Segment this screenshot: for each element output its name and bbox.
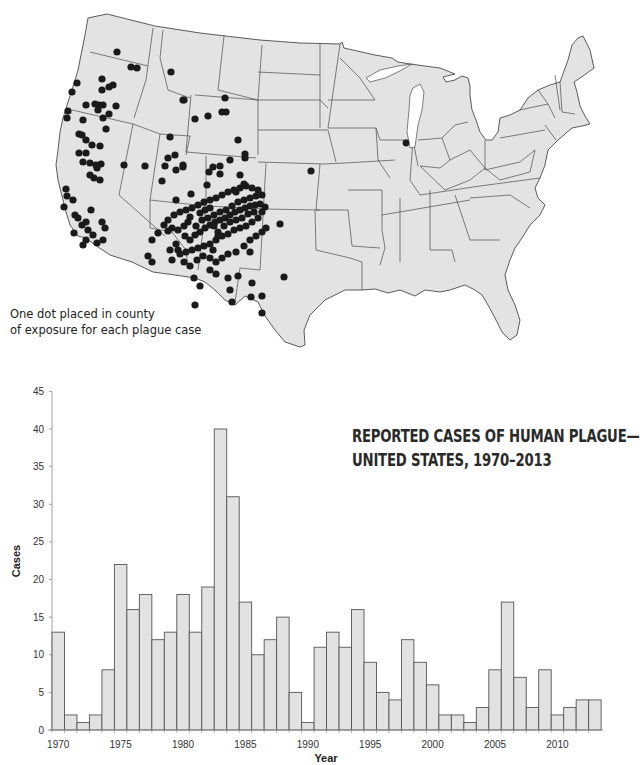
plague-case-dot: [226, 286, 233, 293]
plague-case-dot: [191, 115, 198, 122]
x-tick-label: 1990: [297, 739, 320, 750]
plague-case-dot: [252, 192, 259, 199]
x-tick-label: 2000: [422, 739, 445, 750]
plague-case-dot: [87, 206, 94, 213]
plague-case-dot: [148, 258, 155, 265]
plague-case-dot: [158, 177, 165, 184]
bar-2000: [426, 685, 438, 730]
plague-case-dot: [221, 94, 228, 101]
bar-2008: [526, 707, 538, 730]
plague-case-dot: [97, 160, 104, 167]
bar-2013: [589, 700, 601, 730]
plague-case-dot: [180, 258, 187, 265]
bar-1991: [314, 647, 326, 730]
bar-2006: [501, 602, 513, 730]
bar-1988: [277, 617, 289, 730]
x-axis: 197019751980198519901995200020052010: [47, 730, 603, 750]
bar-1997: [389, 700, 401, 730]
plague-case-dot: [230, 226, 237, 233]
plague-case-dot: [209, 246, 216, 253]
bar-1977: [139, 595, 151, 730]
plague-case-dot: [174, 226, 181, 233]
chart-title-line-2: UNITED STATES, 1970–2013: [352, 448, 640, 472]
us-outline: [56, 14, 594, 347]
bar-1994: [352, 610, 364, 730]
y-axis: 051015202530354045: [33, 386, 52, 736]
plague-case-dot: [63, 114, 70, 121]
plague-case-dot: [96, 176, 103, 183]
plague-case-dot: [64, 107, 71, 114]
x-tick-label: 1970: [47, 739, 70, 750]
bar-1984: [227, 497, 239, 730]
bar-1976: [127, 610, 139, 730]
plague-case-dot: [258, 292, 265, 299]
plague-case-dot: [190, 274, 197, 281]
plague-case-dot: [96, 142, 103, 149]
plague-case-dot: [74, 214, 81, 221]
y-tick-label: 5: [38, 687, 44, 698]
bar-1987: [264, 640, 276, 730]
plague-case-dot: [247, 293, 254, 300]
bar-1978: [152, 640, 164, 730]
plague-case-dot: [69, 196, 76, 203]
plague-case-dot: [214, 232, 221, 239]
bar-2002: [451, 715, 463, 730]
plague-case-dot: [248, 218, 255, 225]
bar-1992: [327, 632, 339, 730]
plague-case-dot: [112, 102, 119, 109]
plague-case-dot: [234, 136, 241, 143]
plague-case-dot: [192, 222, 199, 229]
plague-case-dot: [186, 262, 193, 269]
plague-case-dot: [174, 246, 181, 253]
plague-case-dot: [240, 242, 247, 249]
y-tick-label: 15: [33, 612, 45, 623]
plague-case-dot: [62, 185, 69, 192]
plague-case-dot: [212, 258, 219, 265]
bar-1970: [52, 632, 64, 730]
x-tick-label: 1985: [234, 739, 257, 750]
plague-case-dot: [154, 229, 161, 236]
bar-1995: [364, 662, 376, 730]
plague-case-dot: [133, 64, 140, 71]
us-landmass: [56, 14, 594, 347]
plague-case-dot: [164, 154, 171, 161]
bar-1989: [289, 692, 301, 730]
bar-1999: [414, 662, 426, 730]
bar-1993: [339, 647, 351, 730]
bar-2010: [551, 715, 563, 730]
y-tick-label: 40: [33, 424, 45, 435]
plague-case-dot: [236, 171, 243, 178]
x-axis-title: Year: [314, 752, 338, 764]
plague-case-dot: [168, 256, 175, 263]
bar-1974: [102, 670, 114, 730]
plague-case-dot: [246, 236, 253, 243]
bar-1979: [164, 632, 176, 730]
plague-case-dot: [113, 48, 120, 55]
plague-case-dot: [79, 116, 86, 123]
bar-1983: [214, 429, 226, 730]
plague-case-dot: [246, 248, 253, 255]
plague-case-dot: [166, 133, 173, 140]
plague-case-dot: [218, 254, 225, 261]
plague-case-dot: [276, 220, 283, 227]
plague-case-dot: [179, 96, 186, 103]
plague-case-dot: [196, 282, 203, 289]
plague-case-dot: [127, 63, 134, 70]
x-tick-label: 2010: [546, 739, 569, 750]
x-tick-label: 1995: [359, 739, 382, 750]
x-tick-label: 1980: [172, 739, 195, 750]
plague-case-dot: [167, 68, 174, 75]
plague-case-dot: [109, 81, 116, 88]
plague-case-dot: [220, 222, 227, 229]
bar-1980: [177, 595, 189, 730]
bar-2001: [439, 715, 451, 730]
plague-case-dot: [403, 140, 410, 147]
plague-case-dot: [98, 86, 105, 93]
plague-case-dot: [238, 214, 245, 221]
bar-1972: [77, 722, 89, 730]
y-tick-label: 20: [33, 574, 45, 585]
plague-case-dot: [216, 162, 223, 169]
bar-1981: [189, 632, 201, 730]
plague-case-dot: [262, 224, 269, 231]
bar-1986: [252, 655, 264, 730]
